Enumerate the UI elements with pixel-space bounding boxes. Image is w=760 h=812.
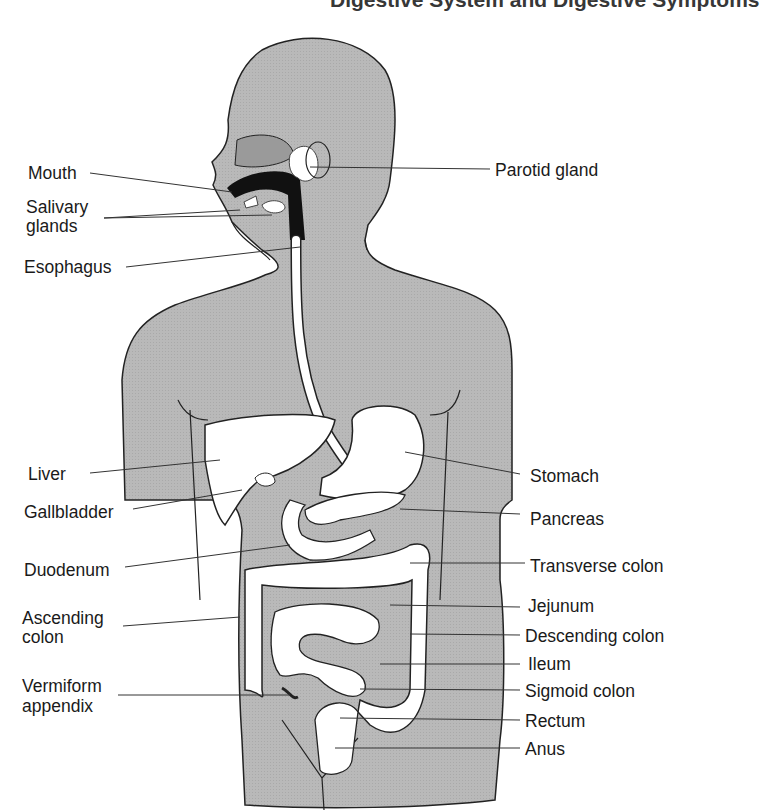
- label-stomach: Stomach: [530, 467, 599, 486]
- rectum-shape: [315, 703, 358, 774]
- label-descending-colon: Descending colon: [525, 627, 664, 646]
- label-jejunum: Jejunum: [528, 597, 594, 616]
- label-salivary-glands-line2: glands: [26, 217, 78, 236]
- label-transverse-colon: Transverse colon: [530, 557, 664, 576]
- label-rectum: Rectum: [525, 712, 585, 731]
- label-ileum: Ileum: [528, 655, 571, 674]
- label-parotid-gland: Parotid gland: [495, 161, 598, 180]
- label-ascending-colon-line1: Ascending: [22, 609, 104, 628]
- label-anus: Anus: [525, 740, 565, 759]
- label-ascending-colon-line2: colon: [22, 628, 64, 647]
- label-vermiform-appendix-line1: Vermiform: [22, 677, 102, 696]
- label-pancreas: Pancreas: [530, 510, 604, 529]
- label-gallbladder: Gallbladder: [24, 503, 114, 522]
- label-salivary-glands-line1: Salivary: [26, 198, 88, 217]
- label-liver: Liver: [28, 465, 66, 484]
- label-vermiform-appendix-line2: appendix: [22, 697, 93, 716]
- label-sigmoid-colon: Sigmoid colon: [525, 682, 635, 701]
- label-esophagus: Esophagus: [24, 258, 112, 277]
- label-mouth: Mouth: [28, 164, 77, 183]
- label-duodenum: Duodenum: [24, 561, 110, 580]
